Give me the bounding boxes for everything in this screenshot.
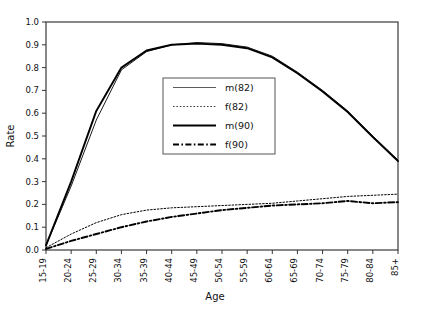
x-tick-label: 45-49 <box>189 258 199 283</box>
x-tick-label: 60-64 <box>264 258 274 283</box>
x-tick-label: 80-84 <box>365 258 375 283</box>
y-tick-label: 0.1 <box>25 222 39 232</box>
y-axis-ticks: 0.00.10.20.30.40.50.60.70.80.91.0 <box>25 17 46 255</box>
y-tick-label: 0.3 <box>25 177 39 187</box>
x-axis-ticks: 15-1920-2425-2930-3435-3940-4445-4950-54… <box>38 250 400 283</box>
x-tick-label: 55-59 <box>239 258 249 283</box>
legend-label-f82: f(82) <box>225 101 248 112</box>
y-tick-label: 0.7 <box>25 85 39 95</box>
legend-label-m82: m(82) <box>225 82 254 93</box>
x-tick-label: 35-39 <box>139 258 149 283</box>
chart-container: 0.00.10.20.30.40.50.60.70.80.91.0 15-192… <box>0 0 428 314</box>
x-tick-label: 20-24 <box>63 258 73 283</box>
x-tick-label: 30-34 <box>113 258 123 283</box>
series-line-f82 <box>46 194 398 248</box>
x-tick-label: 25-29 <box>88 258 98 283</box>
y-tick-label: 1.0 <box>25 17 39 27</box>
chart-legend: m(82)f(82)m(90)f(90) <box>163 78 275 154</box>
x-tick-label: 70-74 <box>315 258 325 283</box>
y-tick-label: 0.9 <box>25 40 39 50</box>
y-tick-label: 0.2 <box>25 199 39 209</box>
legend-label-m90: m(90) <box>225 120 254 131</box>
legend-box <box>163 78 275 154</box>
y-tick-label: 0.0 <box>25 245 39 255</box>
x-tick-label: 85+ <box>390 258 400 276</box>
x-tick-label: 65-69 <box>289 258 299 283</box>
x-tick-label: 75-79 <box>340 258 350 283</box>
y-tick-label: 0.4 <box>25 154 39 164</box>
y-axis-title: Rate <box>5 125 16 148</box>
x-tick-label: 15-19 <box>38 258 48 283</box>
x-tick-label: 40-44 <box>164 258 174 283</box>
y-tick-label: 0.8 <box>25 63 39 73</box>
x-axis-title: Age <box>205 291 224 302</box>
y-tick-label: 0.5 <box>25 131 39 141</box>
series-line-f90 <box>46 201 398 249</box>
y-tick-label: 0.6 <box>25 108 39 118</box>
x-tick-label: 50-54 <box>214 258 224 283</box>
legend-label-f90: f(90) <box>225 139 248 150</box>
line-chart: 0.00.10.20.30.40.50.60.70.80.91.0 15-192… <box>0 0 428 314</box>
